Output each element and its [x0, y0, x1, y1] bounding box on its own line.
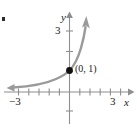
- point-annotation-label: (0, 1): [75, 64, 97, 74]
- curve-arrow-left-icon: [7, 84, 15, 92]
- point-0-1-marker: [66, 67, 73, 74]
- x-axis-label: x: [124, 97, 129, 108]
- graph-canvas: [0, 0, 137, 132]
- y-axis-label: y: [61, 12, 66, 23]
- exponential-function-graph: 3 y −3 3 x (0, 1): [0, 0, 137, 132]
- exponential-curve: [13, 27, 86, 88]
- y-tick-label-3: 3: [55, 25, 61, 36]
- y-axis-arrow-icon: [66, 12, 73, 19]
- x-tick-label-neg3: −3: [9, 96, 21, 107]
- x-tick-label-3: 3: [110, 96, 116, 107]
- x-axis-arrow-icon: [128, 89, 135, 96]
